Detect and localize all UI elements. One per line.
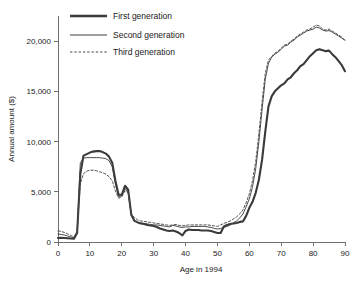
y-axis-title: Annual amount ($) (7, 96, 16, 162)
x-tick-label: 50 (213, 249, 222, 258)
y-tick-label: 10,000 (27, 138, 52, 147)
x-tick-label: 10 (85, 249, 94, 258)
x-tick-label: 40 (181, 249, 190, 258)
legend-label-second-generation: Second generation (113, 30, 185, 40)
x-tick-label: 90 (341, 249, 350, 258)
x-axis-ticks: 0102030405060708090 (56, 242, 350, 258)
series-line-second-generation (58, 27, 345, 238)
series-line-third-generation (58, 25, 345, 237)
series-line-first-generation (58, 49, 345, 239)
x-tick-label: 20 (117, 249, 126, 258)
x-tick-label: 70 (277, 249, 286, 258)
x-axis-title: Age in 1994 (180, 265, 223, 274)
x-tick-label: 60 (245, 249, 254, 258)
legend-label-first-generation: First generation (113, 11, 172, 21)
axes (58, 16, 345, 242)
y-tick-label: 20,000 (27, 37, 52, 46)
legend-label-third-generation: Third generation (113, 47, 175, 57)
chart-container: 05,00010,00015,00020,000 010203040506070… (0, 0, 363, 282)
y-tick-label: 5,000 (31, 188, 52, 197)
y-tick-label: 0 (47, 238, 52, 247)
legend: First generation Second generation Third… (70, 11, 185, 57)
y-tick-label: 15,000 (27, 87, 52, 96)
y-axis-ticks: 05,00010,00015,00020,000 (27, 37, 58, 247)
x-tick-label: 30 (149, 249, 158, 258)
x-tick-label: 80 (309, 249, 318, 258)
series-lines (58, 25, 345, 239)
x-tick-label: 0 (56, 249, 61, 258)
line-chart-figure: 05,00010,00015,00020,000 010203040506070… (0, 0, 363, 282)
